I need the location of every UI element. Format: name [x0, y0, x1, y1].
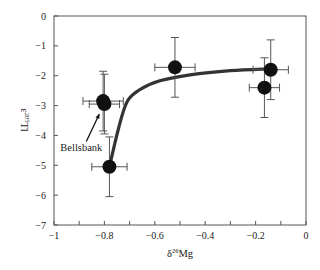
- y-tick-label: −7: [35, 220, 46, 231]
- x-tick-label: −0.2: [247, 230, 265, 241]
- y-tick-label: −3: [35, 100, 46, 111]
- x-axis-ticks: −1−0.8−0.6−0.4−0.20: [49, 221, 309, 241]
- x-tick-label: −1: [49, 230, 60, 241]
- y-tick-label: −4: [35, 130, 46, 141]
- x-tick-label: −0.8: [95, 230, 113, 241]
- data-point-marker: [264, 63, 278, 77]
- y-axis-title: ε205Tl: [19, 108, 31, 132]
- plot-area: [54, 16, 306, 225]
- data-point-marker: [168, 60, 182, 74]
- arrow-icon: [86, 114, 99, 141]
- data-points: [96, 60, 278, 173]
- y-tick-label: −2: [35, 70, 46, 81]
- curve-path: [109, 69, 270, 167]
- y-tick-label: −6: [35, 190, 46, 201]
- mixing-curve: [109, 69, 270, 167]
- x-tick-label: −0.4: [196, 230, 214, 241]
- bellsbank-label: Bellsbank: [60, 142, 103, 153]
- y-tick-label: −5: [35, 160, 46, 171]
- y-axis-ticks: 0−1−2−3−4−5−6−7: [35, 11, 58, 231]
- data-point-marker: [102, 160, 116, 174]
- annotations: Bellsbank: [60, 114, 103, 153]
- x-tick-label: −0.6: [146, 230, 164, 241]
- chart: −1−0.8−0.6−0.4−0.20 0−1−2−3−4−5−6−7 Bell…: [0, 0, 320, 270]
- data-point-marker: [257, 81, 271, 95]
- x-axis-title: δ26Mg: [167, 247, 194, 259]
- error-bars: [83, 37, 288, 196]
- x-tick-label: 0: [304, 230, 309, 241]
- y-tick-label: 0: [41, 11, 46, 22]
- y-tick-label: −1: [35, 40, 46, 51]
- data-point-marker: [97, 97, 111, 111]
